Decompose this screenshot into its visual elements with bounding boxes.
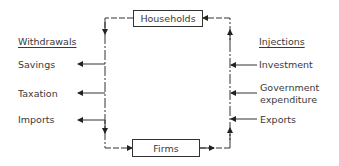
households-label: Households	[140, 13, 195, 24]
injections-heading: Injections	[259, 36, 305, 47]
households-box: Households	[133, 10, 203, 27]
injection-exports: Exports	[260, 114, 296, 125]
withdrawal-savings: Savings	[18, 59, 55, 70]
withdrawal-taxation: Taxation	[18, 88, 58, 99]
injection-government-line2: expenditure	[260, 94, 317, 105]
withdrawal-imports: Imports	[18, 114, 54, 125]
injection-government-line1: Government	[260, 82, 319, 93]
firms-label: Firms	[153, 143, 178, 154]
firms-box: Firms	[132, 139, 200, 157]
withdrawals-heading: Withdrawals	[18, 36, 77, 47]
injection-investment: Investment	[259, 59, 313, 70]
